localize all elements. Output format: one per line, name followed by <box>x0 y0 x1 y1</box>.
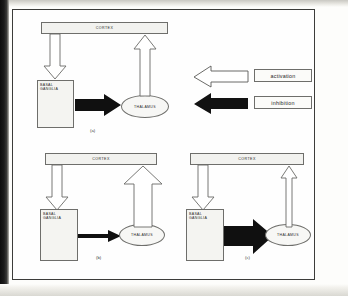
arrow-cortex-to-basal-ganglia-a <box>45 34 67 80</box>
thalamus-label-a: THALAMUS <box>134 105 156 109</box>
thalamus-label-b: THALAMUS <box>131 233 153 237</box>
arrow-cortex-to-basal-ganglia-c <box>193 165 215 211</box>
basal-ganglia-label-line2-b: GANGLIA <box>43 216 75 220</box>
arrow-thalamus-to-cortex-b <box>123 166 163 228</box>
cortex-node-a: CORTEX <box>41 22 168 34</box>
arrow-thalamus-to-cortex-a <box>134 35 158 97</box>
basal-ganglia-node-a: BASAL GANGLIA <box>37 80 74 128</box>
scan-edge-top <box>0 0 348 7</box>
panel-label-a: (a) <box>90 128 95 133</box>
arrow-basal-ganglia-to-thalamus-b <box>78 229 122 243</box>
cortex-label-c: CORTEX <box>238 157 256 161</box>
legend-activation-arrow <box>193 66 249 88</box>
thalamus-node-a: THALAMUS <box>121 95 169 118</box>
panel-c: CORTEX BASAL GANGLIA THALAMUS (c) <box>165 145 316 281</box>
legend-inhibition-arrow <box>193 93 249 115</box>
arrow-basal-ganglia-to-thalamus-a <box>75 94 122 118</box>
basal-ganglia-node-b: BASAL GANGLIA <box>40 209 78 261</box>
panel-a: CORTEX BASAL GANGLIA THALAMUS (a) <box>13 10 316 145</box>
arrow-thalamus-to-cortex-c <box>280 166 298 228</box>
cortex-node-c: CORTEX <box>190 153 304 165</box>
arrow-cortex-to-basal-ganglia-b <box>47 165 69 211</box>
cortex-label-b: CORTEX <box>92 157 110 161</box>
legend-activation-label: activation <box>271 73 296 79</box>
cortex-node-b: CORTEX <box>45 153 157 165</box>
legend-activation-box: activation <box>254 69 312 82</box>
basal-ganglia-label-line2-a: GANGLIA <box>40 87 71 91</box>
scan-edge-left <box>0 0 9 296</box>
basal-ganglia-label-line2-c: GANGLIA <box>189 216 221 220</box>
figure-frame: CORTEX BASAL GANGLIA THALAMUS (a) <box>12 9 315 280</box>
panel-b: CORTEX BASAL GANGLIA THALAMUS (b) <box>13 145 165 281</box>
panel-label-c: (c) <box>245 255 250 260</box>
legend-inhibition-box: inhibition <box>254 96 312 109</box>
panel-label-b: (b) <box>96 255 101 260</box>
scan-edge-bottom <box>0 284 348 296</box>
thalamus-label-c: THALAMUS <box>277 233 299 237</box>
basal-ganglia-node-c: BASAL GANGLIA <box>186 209 224 261</box>
legend-inhibition-label: inhibition <box>271 100 294 106</box>
cortex-label-a: CORTEX <box>96 26 114 30</box>
